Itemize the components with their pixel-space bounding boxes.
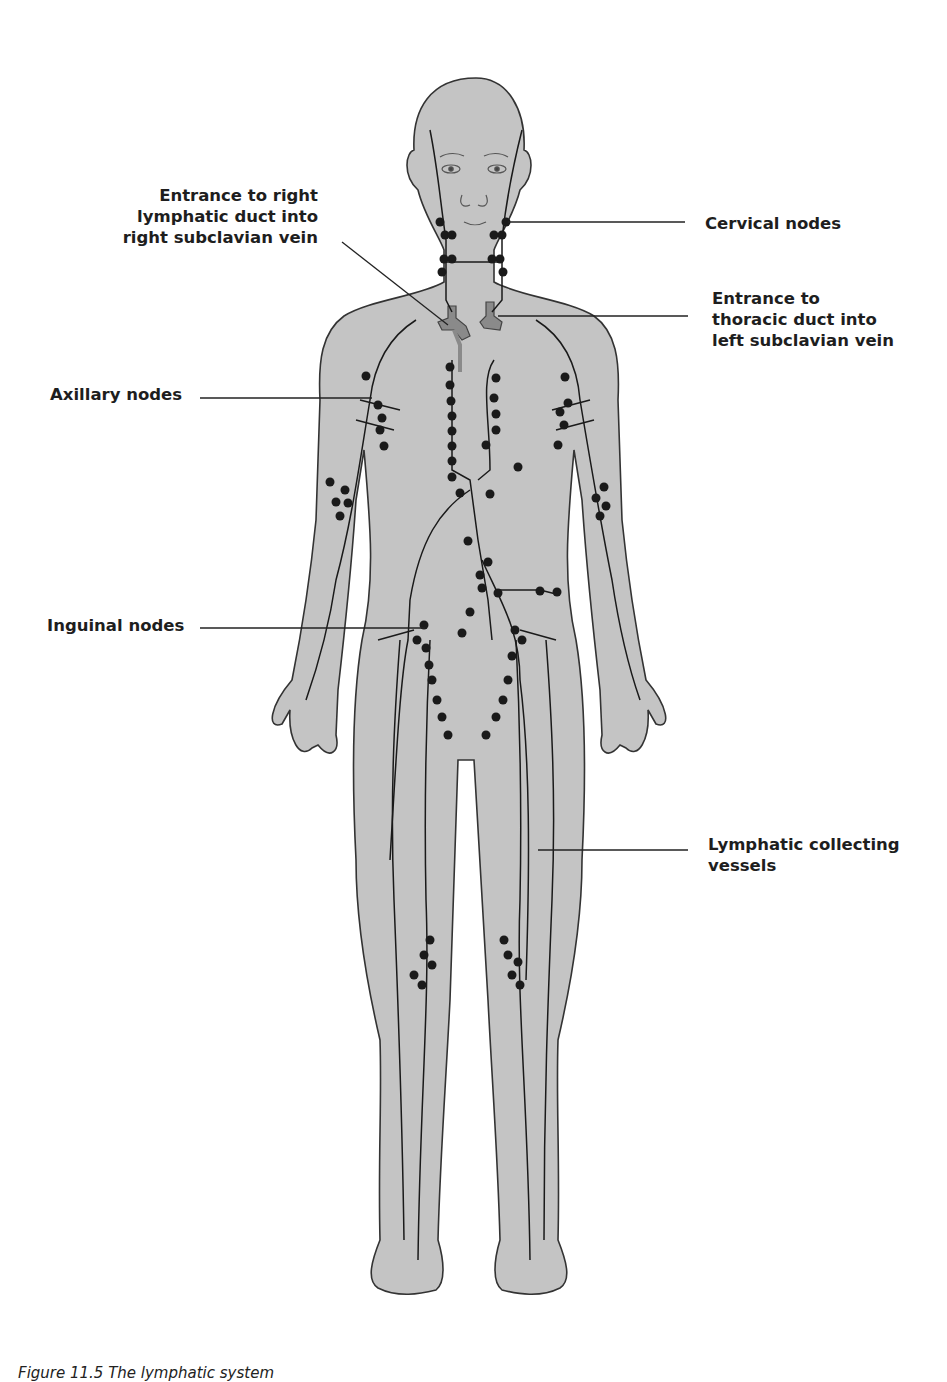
figure-caption: Figure 11.5 The lymphatic system [18, 1364, 274, 1382]
label-thoracic-duct: Entrance to thoracic duct into left subc… [712, 288, 894, 351]
label-lymphatic-collecting-vessels: Lymphatic collecting vessels [708, 834, 900, 876]
body-silhouette [272, 78, 665, 1294]
label-cervical-nodes: Cervical nodes [705, 213, 841, 234]
label-inguinal-nodes: Inguinal nodes [47, 615, 184, 636]
label-axillary-nodes: Axillary nodes [50, 384, 182, 405]
label-right-lymphatic-duct: Entrance to right lymphatic duct into ri… [110, 185, 318, 248]
